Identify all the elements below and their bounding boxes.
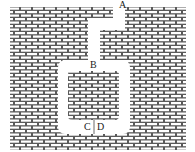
inner-block	[68, 71, 119, 120]
label-d: D	[97, 122, 104, 132]
label-a: A	[119, 0, 126, 10]
label-b: B	[90, 60, 97, 70]
label-c: C	[84, 122, 91, 132]
